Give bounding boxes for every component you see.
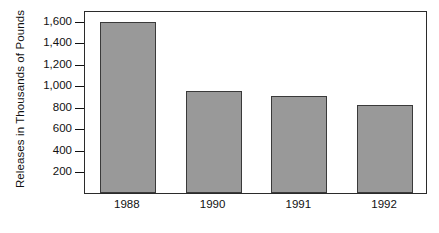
bar-chart-figure: Releases in Thousands of Pounds 20040060… — [0, 0, 439, 233]
y-axis-tick-mark — [75, 22, 84, 23]
y-axis-tick-mark — [75, 172, 84, 173]
y-axis-tick-mark — [75, 129, 84, 130]
y-axis-tick-label: 1,600 — [43, 16, 72, 28]
y-axis-tick-mark — [75, 151, 84, 152]
y-axis-tick-label: 1,000 — [43, 81, 72, 93]
y-axis-tick-label: 800 — [53, 102, 72, 114]
bar — [357, 105, 413, 193]
y-axis-tick-label: 1,200 — [43, 59, 72, 71]
y-axis-tick-label: 1,400 — [43, 38, 72, 50]
y-axis-tick-mark — [75, 108, 84, 109]
plot-area — [84, 11, 427, 194]
y-axis-tick-label: 200 — [53, 167, 72, 179]
bar-series — [85, 12, 426, 193]
bar — [186, 91, 242, 193]
x-axis-tick-label: 1991 — [256, 198, 342, 211]
bar — [100, 22, 156, 193]
y-axis-tick-mark — [75, 86, 84, 87]
x-axis-tick-label: 1990 — [170, 198, 256, 211]
x-axis-tick-labels: 1988199019911992 — [84, 198, 427, 218]
y-axis-tick-label: 600 — [53, 124, 72, 136]
y-axis-tick-label: 400 — [53, 145, 72, 157]
y-axis-tick-labels: 2004006008001,0001,2001,4001,600 — [22, 0, 72, 233]
y-axis-tick-mark — [75, 43, 84, 44]
bar — [271, 96, 327, 193]
y-axis-tick-mark — [75, 65, 84, 66]
x-axis-tick-label: 1992 — [341, 198, 427, 211]
x-axis-tick-label: 1988 — [84, 198, 170, 211]
